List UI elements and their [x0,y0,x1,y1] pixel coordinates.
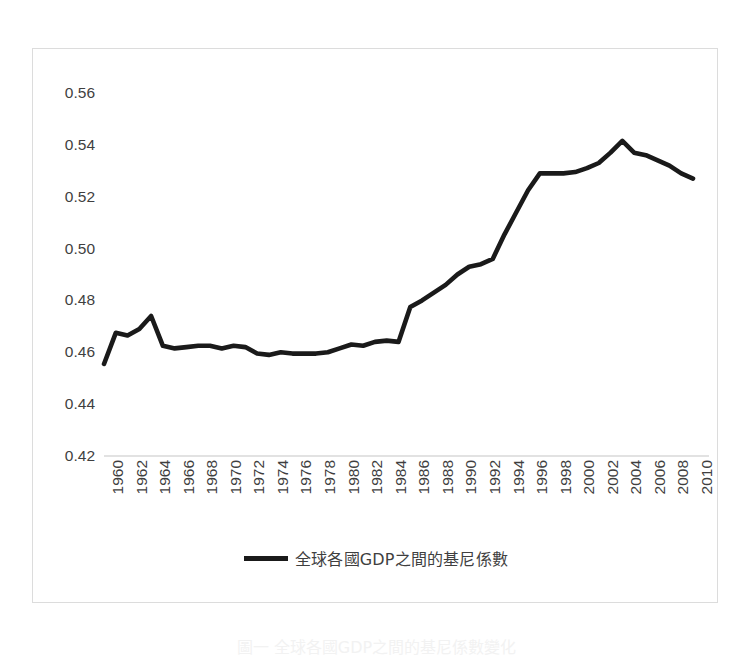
legend-label: 全球各國GDP之間的基尼係數 [295,546,508,570]
figure-caption: 圖一 全球各國GDP之間的基尼係數變化 [0,634,753,658]
legend-line-swatch [244,556,288,561]
line-chart-svg [33,49,719,604]
plot-area: 0.560.540.520.500.480.460.440.42 1960196… [33,49,719,604]
data-series-line [104,141,693,364]
chart-legend: 全球各國GDP之間的基尼係數 [33,546,719,570]
chart-frame: 0.560.540.520.500.480.460.440.42 1960196… [32,48,718,603]
